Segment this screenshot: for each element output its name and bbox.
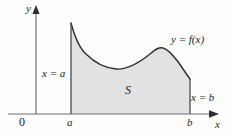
y-axis-label: y [26,3,31,14]
x-tick-label-a: a [67,117,73,128]
x-axis-label: x [215,119,220,130]
curve-equation-label: y = f(x) [171,34,204,45]
y-axis-arrow-icon [32,5,39,14]
figure-graphic [0,0,234,137]
figure-container: y x 0 a b x = a x = b y = f(x) S [0,0,234,137]
region-label-s: S [125,84,131,96]
left-boundary-equation-label: x = a [42,68,65,79]
x-tick-label-b: b [187,117,193,128]
origin-label: 0 [19,116,25,128]
right-boundary-equation-label: x = b [191,92,214,103]
x-axis-arrow-icon [209,110,219,118]
